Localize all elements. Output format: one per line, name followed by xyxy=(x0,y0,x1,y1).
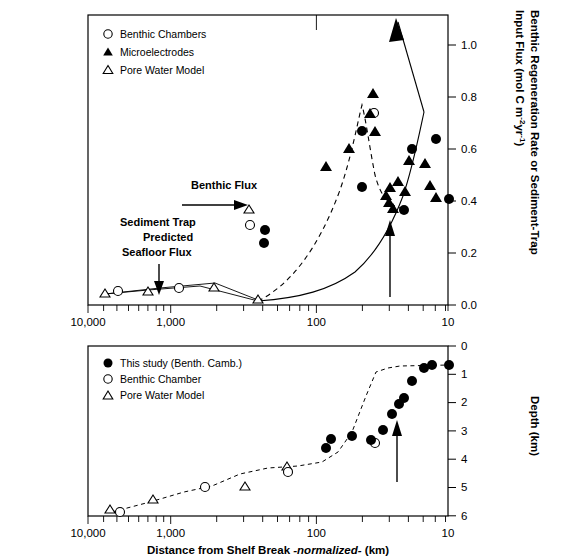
depth-filled-circle xyxy=(407,376,417,386)
x-axis-title-italic: -normalized- xyxy=(293,544,362,556)
top-y-tick-3: 0.6 xyxy=(461,143,477,155)
bottom-open-triangles xyxy=(105,462,292,513)
legend-label-microelectrodes: Microelectrodes xyxy=(120,46,194,58)
x-axis-title-tail: (km) xyxy=(362,544,390,556)
bottom-x-tick-0: 10,000 xyxy=(70,527,105,539)
x-axis-title-main: Distance from Shelf Break xyxy=(147,544,293,556)
depth-filled-circle xyxy=(347,431,357,441)
data-point-filled-triangle xyxy=(424,180,436,190)
top-panel-x-ticks: 10,000 1,000 100 10 xyxy=(70,15,454,328)
shelf-break-arrowhead-top-icon xyxy=(385,220,395,236)
data-point-open-triangle xyxy=(143,287,153,295)
bottom-panel-legend: This study (Benth. Camb.) Benthic Chambe… xyxy=(103,357,242,401)
legend-open-circle-icon-bottom xyxy=(104,375,112,383)
top-panel-legend: Benthic Chambers Microelectrodes Pore Wa… xyxy=(103,28,206,76)
figure-svg: 0.0 0.2 0.4 0.6 0.8 1.0 Benthic Regenera… xyxy=(0,0,582,560)
svg-text:Input Flux (mol C m-2yr-1): Input Flux (mol C m-2yr-1) xyxy=(514,10,528,146)
sediment-trap-solid-curve xyxy=(258,112,424,301)
legend-open-triangle-icon-bottom xyxy=(103,391,113,399)
bottom-y-tick-6: 6 xyxy=(461,510,467,522)
sediment-trap-line3: Seafloor Flux xyxy=(122,246,193,258)
data-point-filled-triangle xyxy=(430,192,442,202)
bottom-y-tick-4: 4 xyxy=(461,453,468,465)
depth-filled-circle xyxy=(378,425,388,435)
bottom-panel-x-ticks: 10,000 1,000 100 10 xyxy=(70,516,454,539)
x-axis-title: Distance from Shelf Break -normalized- (… xyxy=(147,544,389,556)
annotation-benthic-flux: Benthic Flux xyxy=(182,179,258,210)
data-point-filled-triangle xyxy=(399,186,411,196)
top-y-tick-0: 0.0 xyxy=(461,299,477,311)
top-y-title-line2: Input Flux (mol C m xyxy=(514,10,526,117)
depth-axis-title: Depth (km) xyxy=(529,396,541,456)
data-point-filled-circle xyxy=(407,144,417,154)
data-point-filled-circle xyxy=(357,182,367,192)
legend-filled-circle-icon xyxy=(104,359,113,368)
data-point-filled-circle xyxy=(431,134,441,144)
legend-label-pore-water-model-bottom: Pore Water Model xyxy=(120,389,204,401)
top-filled-circles xyxy=(259,126,454,248)
data-point-filled-circle xyxy=(444,194,454,204)
data-point-filled-triangle xyxy=(419,158,431,168)
depth-open-triangle xyxy=(105,505,115,513)
bottom-y-tick-0: 0 xyxy=(461,340,467,352)
top-panel-y-axis-title: Benthic Regeneration Rate or Sediment-Tr… xyxy=(514,10,541,255)
depth-open-circle xyxy=(201,483,210,492)
figure-container: 0.0 0.2 0.4 0.6 0.8 1.0 Benthic Regenera… xyxy=(0,0,582,560)
top-panel-frame xyxy=(88,15,448,305)
legend-label-pore-water-model: Pore Water Model xyxy=(120,64,204,76)
data-point-filled-circle xyxy=(399,205,409,215)
top-y-tick-5: 1.0 xyxy=(461,39,477,51)
depth-open-circle xyxy=(116,508,125,517)
shelf-break-arrowhead-bottom-icon xyxy=(392,420,402,436)
depth-filled-circle xyxy=(399,393,409,403)
data-point-filled-triangle xyxy=(367,88,379,98)
sediment-trap-line1: Sediment Trap xyxy=(120,216,196,228)
bottom-x-tick-3: 10 xyxy=(442,527,455,539)
bottom-x-tick-2: 100 xyxy=(307,527,326,539)
bottom-y-tick-1: 1 xyxy=(461,368,467,380)
top-x-tick-3: 10 xyxy=(442,316,455,328)
annotation-sediment-trap: Sediment Trap Predicted Seafloor Flux xyxy=(120,216,196,295)
data-point-open-circle xyxy=(246,221,255,230)
legend-label-benthic-chambers: Benthic Chambers xyxy=(120,28,206,40)
depth-filled-circle xyxy=(387,409,397,419)
legend-label-benthic-chamber: Benthic Chamber xyxy=(120,373,202,385)
data-point-open-circle xyxy=(114,287,123,296)
data-point-open-triangle xyxy=(100,289,110,297)
top-panel: 0.0 0.2 0.4 0.6 0.8 1.0 Benthic Regenera… xyxy=(70,10,541,328)
bottom-y-tick-5: 5 xyxy=(461,481,467,493)
top-y-title-line4: ) xyxy=(514,142,526,146)
top-x-tick-1: 1,000 xyxy=(156,316,185,328)
depth-filled-circle xyxy=(427,360,437,370)
data-point-filled-triangle xyxy=(343,143,355,153)
top-open-circles xyxy=(114,109,379,296)
solid-curve-arrowhead-icon xyxy=(389,18,404,42)
legend-open-circle-icon xyxy=(104,30,112,38)
depth-filled-circle xyxy=(366,435,376,445)
top-x-tick-2: 100 xyxy=(307,316,326,328)
data-point-filled-circle xyxy=(259,238,269,248)
bottom-y-tick-3: 3 xyxy=(461,425,467,437)
bottom-open-circles xyxy=(116,439,380,517)
legend-open-triangle-icon xyxy=(103,66,113,74)
top-y-tick-1: 0.2 xyxy=(461,247,477,259)
data-point-filled-triangle xyxy=(392,176,404,186)
data-point-open-triangle xyxy=(244,205,254,213)
annotation-shelf-break-top xyxy=(385,220,395,297)
top-y-tick-4: 0.8 xyxy=(461,91,477,103)
top-x-tick-0: 10,000 xyxy=(70,316,105,328)
top-y-title-line3: yr xyxy=(514,124,526,135)
top-panel-y-axis: 0.0 0.2 0.4 0.6 0.8 1.0 xyxy=(448,39,478,311)
depth-filled-circle xyxy=(326,434,336,444)
benthic-flux-label: Benthic Flux xyxy=(191,179,258,191)
top-y-tick-2: 0.4 xyxy=(461,195,478,207)
legend-filled-triangle-icon xyxy=(103,48,113,56)
bottom-panel-y-axis-title: Depth (km) xyxy=(529,396,541,456)
depth-open-circle xyxy=(284,468,293,477)
depth-open-triangle xyxy=(148,495,158,503)
data-point-filled-circle xyxy=(357,126,367,136)
depth-filled-circle xyxy=(321,443,331,453)
data-point-filled-triangle xyxy=(320,161,332,171)
data-point-filled-triangle xyxy=(369,126,381,136)
bottom-x-tick-1: 1,000 xyxy=(156,527,185,539)
